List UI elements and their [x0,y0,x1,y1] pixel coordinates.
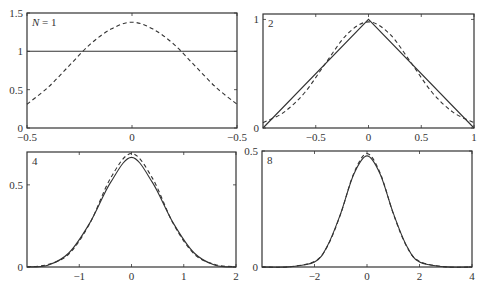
x-tick-label: 2 [233,270,239,282]
axes-frame [262,151,472,267]
uniform-sum-curve [263,19,474,128]
gaussian-curve [262,154,472,268]
gaussian-curve [27,22,237,104]
y-tick-label: 0 [253,261,259,273]
x-tick-label: 1 [181,270,187,282]
y-tick-label: 1 [254,13,260,25]
y-tick-label: 1 [18,45,24,57]
panel-n1: −0.50−0.500.511.5N = 1 [9,7,247,143]
panel-label: N = 1 [31,16,57,28]
x-tick-label: 1 [471,131,477,143]
panel-label: 8 [267,154,273,166]
y-tick-label: 0.5 [9,84,23,96]
uniform-sum-curve [262,156,472,267]
y-tick-label: 0 [254,122,260,134]
gaussian-curve [27,154,236,267]
y-tick-label: 0.5 [9,179,23,191]
x-tick-label: 0 [364,270,370,282]
panel-n2: −0.500.51012 [254,13,477,143]
panel-n8: −202400.58 [244,145,475,282]
panel-n4: −101200.54 [9,152,239,282]
axes-frame [27,13,237,128]
x-tick-label: −0.5 [306,131,326,143]
y-tick-label: 0 [18,122,24,134]
axes-frame [263,14,474,128]
y-tick-label: 1.5 [9,7,23,19]
y-tick-label: 0 [18,261,24,273]
y-tick-label: 0.5 [244,145,258,157]
figure: −0.50−0.500.511.5N = 1 −0.500.51012 −101… [0,0,483,294]
x-tick-label: 0 [129,131,135,143]
x-tick-label: 0 [129,270,135,282]
x-tick-label: −1 [73,270,85,282]
panel-label: 2 [268,17,274,29]
gaussian-curve [263,22,474,123]
x-tick-label: −2 [309,270,321,282]
axes-frame [27,152,236,267]
x-tick-label: 4 [469,270,475,282]
x-tick-label: 0 [366,131,372,143]
x-tick-label: 2 [417,270,423,282]
uniform-sum-curve [27,157,236,267]
x-tick-label: 0.5 [414,131,428,143]
panel-label: 4 [32,155,38,167]
x-tick-label: −0.5 [227,131,247,143]
